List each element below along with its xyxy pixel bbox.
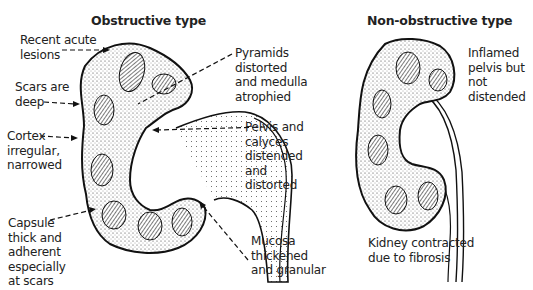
label-capsule: Capsule thick and adherent especially at… [8,216,66,289]
label-pyramids-distorted: Pyramids distorted and medulla atrophied [235,46,308,104]
label-scars-deep: Scars are deep [15,80,69,109]
title-non-obstructive-type: Non-obstructive type [367,13,512,28]
label-kidney-contracted: Kidney contracted due to fibrosis [368,236,474,265]
label-inflamed-pelvis: Inflamed pelvis but not distended [468,46,526,104]
label-mucosa: Mucosa thickened and granular [251,234,326,278]
label-pelvis-calyces: Pelvis and calyces distended and distort… [245,120,304,193]
pyelonephritis-diagram: Obstructive type Non-obstructive type Re… [0,0,533,290]
title-obstructive-type: Obstructive type [91,13,206,28]
label-cortex-irregular: Cortex irregular, narrowed [7,129,62,173]
label-recent-acute-lesions: Recent acute lesions [20,33,97,62]
